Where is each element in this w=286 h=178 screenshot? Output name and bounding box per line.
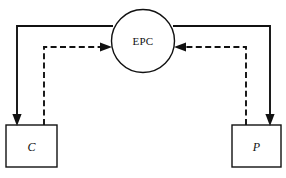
diagram-canvas: EPC C P (0, 0, 286, 178)
edge-consumer-to-hub-arrowhead (100, 42, 112, 51)
edge-consumer-to-hub-path (44, 47, 103, 125)
edge-hub-to-producer-arrowhead (265, 114, 274, 126)
node-producer-box[interactable]: P (232, 125, 281, 167)
edge-hub-to-consumer-path (17, 26, 113, 117)
edge-hub-to-consumer-arrowhead (12, 114, 21, 126)
producer-label: P (252, 140, 261, 154)
node-consumer-box[interactable]: C (6, 125, 57, 167)
edge-consumer-to-hub (44, 42, 112, 125)
diagram-svg: EPC C P (0, 0, 286, 178)
node-epc-hub[interactable]: EPC (112, 10, 175, 73)
edge-hub-to-producer (173, 26, 275, 126)
edge-producer-to-hub (174, 42, 246, 125)
edge-producer-to-hub-arrowhead (174, 42, 186, 51)
epc-label: EPC (133, 35, 154, 47)
consumer-label: C (27, 140, 36, 154)
edge-hub-to-producer-path (173, 26, 270, 117)
edge-hub-to-consumer (12, 26, 113, 126)
edge-producer-to-hub-path (183, 47, 246, 125)
